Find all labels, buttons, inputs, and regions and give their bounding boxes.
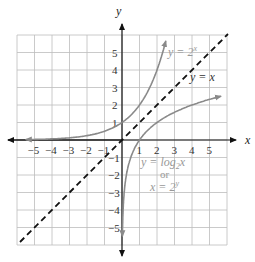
x-tick-label: −4: [45, 144, 57, 156]
y-tick-label: −4: [108, 204, 120, 216]
x-tick-label: −3: [63, 144, 75, 156]
identity-line: [20, 34, 228, 242]
x-axis-label: x: [244, 133, 251, 147]
exp-curve: [122, 41, 166, 123]
y-tick-label: −5: [108, 222, 120, 234]
exp-curve-left-tail: [26, 123, 122, 140]
y-tick-label: −1: [108, 152, 120, 164]
or-label: or: [160, 168, 170, 180]
x-tick-label: −2: [80, 144, 92, 156]
y-tick-label: 4: [112, 64, 118, 76]
y-tick-label: 5: [112, 47, 118, 59]
y-axis-label: y: [115, 4, 122, 18]
inverse-label: x = 2y: [149, 179, 179, 194]
x-tick-label: −5: [28, 144, 40, 156]
identity-line-label: y = x: [189, 70, 215, 84]
log-curve: [140, 96, 222, 140]
y-tick-label: −2: [108, 169, 120, 181]
y-tick-label: −3: [108, 187, 120, 199]
exp-curve-label: y = 2x: [167, 44, 197, 59]
function-graph: x y −5−4−3−2−11234554321−1−2−3−4−5 y = 2…: [0, 0, 255, 262]
y-tick-label: 2: [112, 99, 118, 111]
x-tick-label: 5: [207, 144, 213, 156]
x-tick-label: 4: [189, 144, 195, 156]
y-tick-label: 3: [112, 82, 118, 94]
